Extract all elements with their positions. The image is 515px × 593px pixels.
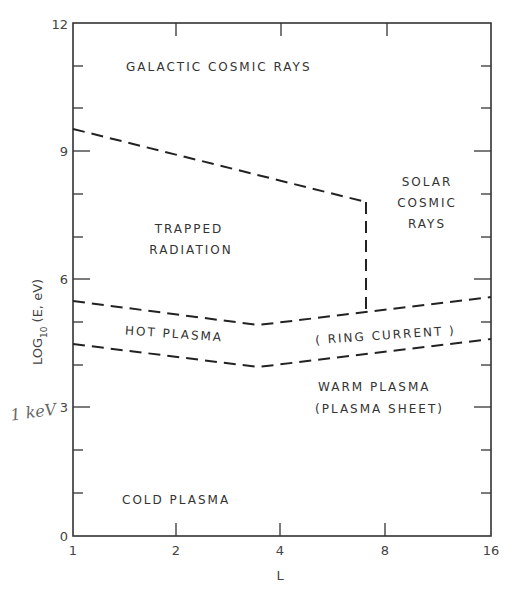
x-tick-2: 2 — [172, 543, 180, 558]
label-ring-current: ( RING CURRENT ) — [315, 323, 456, 347]
label-solar: SOLAR — [402, 175, 453, 189]
x-axis-title: L — [276, 568, 284, 583]
y-tick-3: 3 — [60, 400, 68, 415]
label-cold-plasma: COLD PLASMA — [122, 493, 230, 507]
chart: 0 3 6 9 12 1 2 4 8 16 L LOG10 (E, eV) 1 … — [0, 0, 515, 593]
label-trapped: TRAPPED — [154, 222, 224, 236]
y-axis-title: LOG10 (E, eV) — [30, 279, 49, 365]
region-labels: GALACTIC COSMIC RAYS TRAPPED RADIATION S… — [122, 60, 457, 507]
x-tick-8: 8 — [381, 543, 389, 558]
label-warm-plasma: WARM PLASMA — [318, 380, 431, 394]
y-tick-6: 6 — [60, 272, 68, 287]
label-plasma-sheet: (PLASMA SHEET) — [315, 402, 444, 416]
y-axis-ticks-right — [474, 66, 491, 493]
x-tick-16: 16 — [483, 543, 500, 558]
label-rays: RAYS — [408, 217, 446, 231]
x-tick-labels: 1 2 4 8 16 — [69, 543, 499, 558]
x-axis-ticks — [176, 23, 387, 536]
label-cosmic: COSMIC — [397, 196, 457, 210]
y-tick-0: 0 — [60, 529, 68, 544]
x-tick-4: 4 — [276, 543, 284, 558]
y-tick-12: 12 — [51, 17, 68, 32]
hot-plasma-lower-boundary — [73, 339, 491, 367]
hot-plasma-upper-boundary — [73, 297, 491, 325]
label-galactic-cosmic-rays: GALACTIC COSMIC RAYS — [126, 60, 312, 74]
y-tick-9: 9 — [60, 144, 68, 159]
plot-frame — [73, 23, 491, 536]
y-tick-labels: 0 3 6 9 12 — [51, 17, 68, 544]
handwritten-1kev-annotation: 1 keV — [9, 399, 59, 424]
trapped-radiation-upper-boundary — [73, 129, 366, 202]
label-hot-plasma: HOT PLASMA — [125, 324, 224, 345]
x-tick-1: 1 — [69, 543, 77, 558]
label-radiation: RADIATION — [149, 243, 232, 257]
